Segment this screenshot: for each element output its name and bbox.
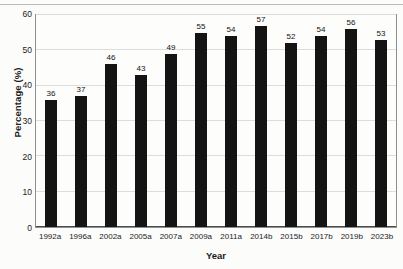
plot-area: 363746434955545752545653 <box>35 14 397 228</box>
bar-slot[interactable]: 49 <box>156 15 186 227</box>
bar-series: 363746434955545752545653 <box>36 15 396 227</box>
bar-value-label: 52 <box>276 33 306 41</box>
bar[interactable] <box>165 54 177 227</box>
bar-slot[interactable]: 56 <box>336 15 366 227</box>
bar-value-label: 55 <box>186 23 216 31</box>
bar-value-label: 49 <box>156 44 186 52</box>
bar-slot[interactable]: 53 <box>366 15 396 227</box>
x-axis-title: Year <box>35 250 397 261</box>
x-axis-tick-labels: 1992a1996a2002a2005a2007a2009a2011a2014b… <box>35 232 397 241</box>
x-axis-tick-label: 2007a <box>156 232 186 241</box>
bar-slot[interactable]: 46 <box>96 15 126 227</box>
y-axis-tick-label: 20 <box>14 152 32 162</box>
y-axis-tick-label: 60 <box>14 9 32 19</box>
bar-slot[interactable]: 36 <box>36 15 66 227</box>
bar-chart-figure: Percentage (%) 0102030405060 36374643495… <box>0 0 403 269</box>
bar[interactable] <box>255 26 267 227</box>
bar-slot[interactable]: 52 <box>276 15 306 227</box>
x-axis-tick-label: 2005a <box>126 232 156 241</box>
bar[interactable] <box>45 100 57 227</box>
bar-value-label: 54 <box>216 26 246 34</box>
y-axis-tick-label: 40 <box>14 80 32 90</box>
bar[interactable] <box>285 43 297 227</box>
bar[interactable] <box>75 96 87 227</box>
bar-slot[interactable]: 37 <box>66 15 96 227</box>
y-axis-tick-label: 30 <box>14 116 32 126</box>
bar-value-label: 53 <box>366 30 396 38</box>
bar-slot[interactable]: 54 <box>216 15 246 227</box>
bar-value-label: 43 <box>126 65 156 73</box>
x-axis-tick-label: 1992a <box>35 232 65 241</box>
x-axis-tick-label: 2002a <box>95 232 125 241</box>
bar-slot[interactable]: 55 <box>186 15 216 227</box>
bar[interactable] <box>315 36 327 227</box>
bar-value-label: 54 <box>306 26 336 34</box>
bar-value-label: 57 <box>246 16 276 24</box>
x-axis-tick-label: 2015b <box>276 232 306 241</box>
bar-value-label: 56 <box>336 19 366 27</box>
x-axis-tick-label: 2017b <box>307 232 337 241</box>
y-axis-tick-label: 50 <box>14 45 32 55</box>
y-axis-tick-labels: 0102030405060 <box>14 14 32 228</box>
page-top-rule <box>0 4 403 5</box>
bar[interactable] <box>225 36 237 227</box>
bar[interactable] <box>375 40 387 227</box>
bar[interactable] <box>195 33 207 227</box>
y-axis-tick-label: 0 <box>14 223 32 233</box>
bar-slot[interactable]: 57 <box>246 15 276 227</box>
bar-slot[interactable]: 54 <box>306 15 336 227</box>
x-axis-tick-label: 1996a <box>65 232 95 241</box>
bar-slot[interactable]: 43 <box>126 15 156 227</box>
x-axis-tick-label: 2023b <box>367 232 397 241</box>
bar[interactable] <box>105 64 117 227</box>
bar-value-label: 36 <box>36 90 66 98</box>
bar-value-label: 46 <box>96 54 126 62</box>
x-axis-tick-label: 2014b <box>246 232 276 241</box>
x-axis-tick-label: 2011a <box>216 232 246 241</box>
bar[interactable] <box>135 75 147 227</box>
bar-value-label: 37 <box>66 86 96 94</box>
x-axis-tick-label: 2019b <box>337 232 367 241</box>
x-axis-tick-label: 2009a <box>186 232 216 241</box>
y-axis-tick-label: 10 <box>14 187 32 197</box>
bar[interactable] <box>345 29 357 227</box>
